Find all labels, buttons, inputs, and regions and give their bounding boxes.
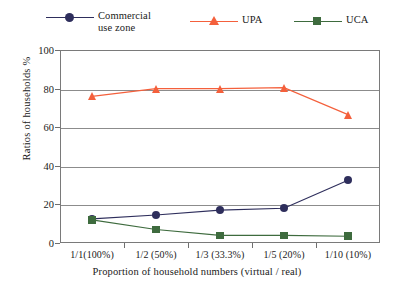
data-point-marker: [280, 232, 288, 240]
data-point-marker: [152, 85, 160, 93]
data-point-marker: [88, 92, 96, 100]
data-point-marker: [152, 211, 160, 219]
data-point-marker: [88, 216, 96, 224]
series-lines: [0, 0, 394, 291]
data-point-marker: [344, 111, 352, 119]
data-point-marker: [216, 85, 224, 93]
plot-area: 020406080100 Ratios of households % 1/1(…: [0, 0, 394, 291]
data-point-marker: [216, 232, 224, 240]
chart-container: Commercial use zone UPA UCA 020406080100…: [0, 0, 394, 291]
data-point-marker: [280, 84, 288, 92]
data-point-marker: [344, 232, 352, 240]
data-point-marker: [152, 226, 160, 234]
